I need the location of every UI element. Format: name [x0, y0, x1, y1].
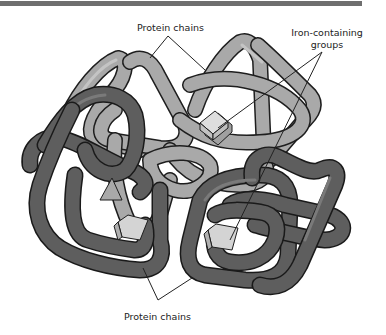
iron-group-right — [204, 224, 238, 250]
leader-top-right — [168, 36, 205, 70]
leader-bottom-right — [158, 278, 192, 300]
leader-top-left — [150, 36, 168, 58]
protein-structure-diagram: .lo { fill: none; stroke: #1e1e1e; strok… — [0, 0, 386, 335]
